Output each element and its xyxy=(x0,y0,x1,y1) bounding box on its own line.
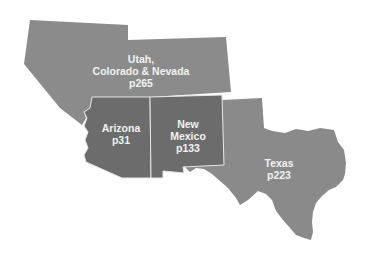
label-texas: Texas p223 xyxy=(265,157,294,181)
label-utah-colorado-nevada: Utah, Colorado & Nevada p265 xyxy=(93,53,190,89)
label-arizona: Arizona p31 xyxy=(102,122,141,146)
label-new-mexico: New Mexico p133 xyxy=(170,118,206,154)
